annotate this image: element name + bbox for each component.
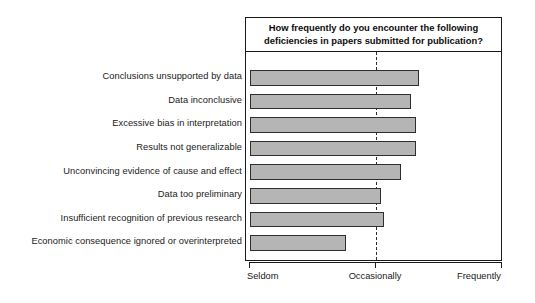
bar (250, 235, 346, 251)
chart-figure: Conclusions unsupported by dataData inco… (0, 0, 535, 303)
x-axis-tick (501, 262, 502, 268)
x-axis-tick-label: Occasionally (349, 271, 402, 281)
chart-title-line-2: deficiencies in papers submitted for pub… (264, 35, 483, 46)
x-axis-tick (249, 262, 250, 268)
bar (250, 70, 419, 86)
bar (250, 212, 384, 228)
x-axis-tick-label: Seldom (247, 271, 279, 281)
bar (250, 188, 381, 204)
plot-area (246, 52, 501, 260)
page-title: How frequently do you encounter the foll… (258, 22, 489, 47)
plot-frame: How frequently do you encounter the foll… (245, 17, 502, 261)
category-label: Insufficient recognition of previous res… (0, 213, 242, 224)
category-label: Economic consequence ignored or overinte… (0, 236, 242, 247)
chart-title-line-1: How frequently do you encounter the foll… (269, 22, 478, 33)
chart-title-band: How frequently do you encounter the foll… (246, 18, 501, 52)
category-label: Results not generalizable (0, 142, 242, 153)
bar (250, 141, 416, 157)
x-axis: SeldomOccasionallyFrequently (249, 262, 502, 263)
x-axis-tick-label: Frequently (457, 271, 501, 281)
category-label-column: Conclusions unsupported by dataData inco… (0, 66, 242, 254)
bar (250, 94, 411, 110)
category-label: Excessive bias in interpretation (0, 118, 242, 129)
bar (250, 117, 416, 133)
category-label: Data inconclusive (0, 95, 242, 106)
category-label: Conclusions unsupported by data (0, 71, 242, 82)
bar (250, 164, 401, 180)
x-axis-tick (375, 262, 376, 268)
category-label: Data too preliminary (0, 189, 242, 200)
category-label: Unconvincing evidence of cause and effec… (0, 166, 242, 177)
